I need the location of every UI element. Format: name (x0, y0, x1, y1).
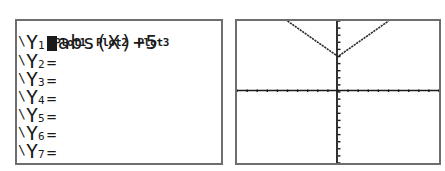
equals-sign: = (47, 91, 57, 106)
equals-sign: = (47, 109, 57, 124)
graph-style-icon[interactable]: \ (18, 33, 26, 48)
graph-style-icon[interactable]: \ (18, 142, 26, 157)
abs-function-curve (288, 21, 389, 57)
equals-sign: = (47, 73, 57, 88)
graph-canvas (237, 21, 439, 163)
graph-screen (235, 19, 441, 165)
y-label: Y (26, 143, 38, 160)
graph-style-icon[interactable]: \ (18, 124, 26, 139)
y-equals-editor: Plot1Plot2Plot3 \ Y 1 abs(X)+5 \ Y 2 = \… (15, 19, 223, 165)
equals-sign: = (47, 145, 57, 160)
y-subscript: 1 (38, 40, 45, 51)
y7-row[interactable]: \ Y 7 = (18, 143, 56, 160)
selected-equals-cursor[interactable] (47, 36, 57, 51)
graph-style-icon[interactable]: \ (18, 88, 26, 103)
graph-style-icon[interactable]: \ (18, 52, 26, 67)
y-subscript: 4 (38, 95, 45, 106)
y-subscript: 3 (38, 77, 45, 88)
y-subscript: 6 (38, 131, 45, 142)
graph-style-icon[interactable]: \ (18, 70, 26, 85)
equals-sign: = (47, 55, 57, 70)
equals-sign: = (47, 127, 57, 142)
y1-expression[interactable]: abs(X)+5 (58, 34, 158, 51)
y-subscript: 2 (38, 59, 45, 70)
graph-style-icon[interactable]: \ (18, 106, 26, 121)
y-subscript: 5 (38, 113, 45, 124)
y-subscript: 7 (38, 149, 45, 160)
y1-row[interactable]: \ Y 1 abs(X)+5 (18, 34, 158, 51)
y-axis-ticks (338, 21, 341, 163)
